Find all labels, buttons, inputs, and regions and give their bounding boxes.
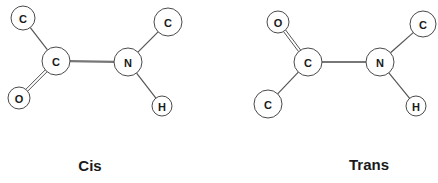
atom-symbol: O	[15, 93, 24, 105]
atom-symbol: N	[376, 57, 384, 69]
trans-bond-n-h	[389, 73, 410, 98]
cis-atom-c_carbonyl: C	[42, 47, 70, 75]
atom-symbol: N	[124, 57, 132, 69]
bonds-layer	[26, 28, 413, 99]
trans-atom-n: N	[366, 48, 394, 76]
trans-atom-c_methyl: C	[254, 90, 282, 118]
cis-atom-c_n_methyl: C	[154, 8, 182, 36]
cis-bond-n-h	[137, 73, 156, 98]
atom-symbol: C	[419, 19, 427, 31]
trans-bond-o-c_carbonyl	[286, 30, 301, 50]
cis-atom-c_methyl: C	[11, 6, 35, 30]
cis-bond-n-c_n_methyl	[138, 32, 158, 52]
trans-atom-c_n_methyl: C	[410, 11, 436, 37]
labels-layer: Cis Trans	[78, 156, 389, 174]
trans-atom-c_carbonyl: C	[294, 48, 322, 76]
trans-bond-n-c_n_methyl	[390, 33, 413, 53]
cis-atom-o: O	[8, 87, 30, 109]
cis-bond-c_carbonyl-o	[28, 72, 47, 91]
trans-atom-o: O	[267, 11, 289, 33]
cis-bond-c_carbonyl-n	[70, 61, 114, 62]
cis-bond-c_carbonyl-o	[26, 70, 45, 89]
cis-bond-c_methyl-c_carbonyl	[30, 28, 47, 50]
cis-atom-n: N	[114, 48, 142, 76]
trans-bond-c_carbonyl-c_methyl	[278, 72, 299, 94]
atom-symbol: H	[158, 101, 166, 113]
trans-bond-o-c_carbonyl	[284, 32, 299, 52]
atom-symbol: C	[304, 57, 312, 69]
isomer-diagram: CCONCHOCCNCH Cis Trans	[0, 0, 438, 183]
atom-symbol: C	[264, 99, 272, 111]
atom-symbol: C	[164, 17, 172, 29]
atom-symbol: H	[412, 101, 420, 113]
trans-label: Trans	[349, 156, 389, 173]
cis-atom-h: H	[152, 96, 172, 116]
atom-symbol: C	[52, 56, 60, 68]
atom-symbol: O	[274, 17, 283, 29]
atom-symbol: C	[19, 13, 27, 25]
trans-atom-h: H	[406, 96, 426, 116]
cis-label: Cis	[78, 157, 101, 174]
